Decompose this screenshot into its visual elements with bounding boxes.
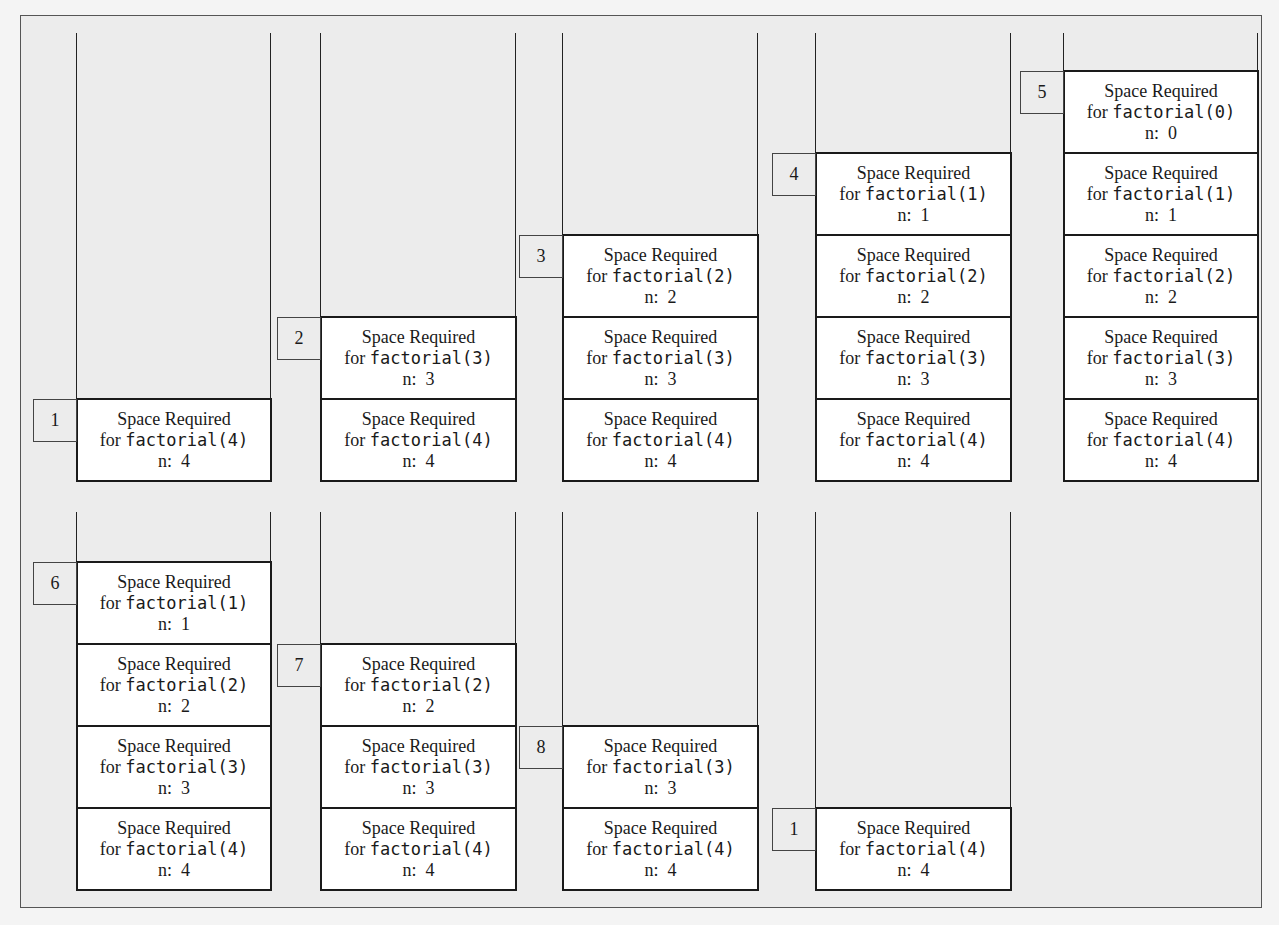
- frame-n-value: n: 3: [322, 778, 515, 799]
- frame-title: Space Required: [322, 818, 515, 839]
- step-number-label: 3: [519, 235, 563, 278]
- frame-n-value: n: 2: [564, 287, 757, 308]
- frame-n-value: n: 3: [817, 369, 1010, 390]
- method-call: factorial(2): [1112, 266, 1235, 286]
- frame-title: Space Required: [322, 654, 515, 675]
- stack-frame: Space Requiredfor factorial(2)n: 2: [76, 643, 272, 727]
- frame-call: for factorial(2): [1065, 266, 1257, 287]
- step-number-label: 5: [1020, 71, 1064, 114]
- stack-frame: Space Requiredfor factorial(4)n: 4: [76, 398, 272, 482]
- frame-call: for factorial(4): [322, 839, 515, 860]
- method-call: factorial(3): [1112, 348, 1235, 368]
- frame-call: for factorial(2): [564, 266, 757, 287]
- frame-title: Space Required: [78, 654, 270, 675]
- frame-title: Space Required: [1065, 81, 1257, 102]
- stack-frame: Space Requiredfor factorial(1)n: 1: [76, 561, 272, 645]
- frame-title: Space Required: [817, 409, 1010, 430]
- stack-frame: Space Requiredfor factorial(4)n: 4: [562, 807, 759, 891]
- frame-n-value: n: 1: [78, 614, 270, 635]
- frame-n-value: n: 1: [1065, 205, 1257, 226]
- frame-title: Space Required: [564, 736, 757, 757]
- stack-frame: Space Requiredfor factorial(2)n: 2: [1063, 234, 1259, 318]
- stack-frame: Space Requiredfor factorial(3)n: 3: [76, 725, 272, 809]
- frame-title: Space Required: [817, 327, 1010, 348]
- method-call: factorial(3): [612, 348, 735, 368]
- method-call: factorial(4): [612, 430, 735, 450]
- method-call: factorial(3): [370, 757, 493, 777]
- frame-n-value: n: 3: [78, 778, 270, 799]
- frame-n-value: n: 4: [817, 860, 1010, 881]
- method-call: factorial(1): [125, 593, 248, 613]
- frame-n-value: n: 4: [564, 451, 757, 472]
- frame-call: for factorial(2): [322, 675, 515, 696]
- step-number-label: 7: [277, 644, 321, 687]
- stack-frame: Space Requiredfor factorial(1)n: 1: [815, 152, 1012, 236]
- method-call: factorial(3): [865, 348, 988, 368]
- frame-call: for factorial(3): [322, 348, 515, 369]
- stack-frame: Space Requiredfor factorial(4)n: 4: [320, 807, 517, 891]
- frame-call: for factorial(3): [1065, 348, 1257, 369]
- method-call: factorial(3): [125, 757, 248, 777]
- method-call: factorial(1): [865, 184, 988, 204]
- frame-n-value: n: 3: [322, 369, 515, 390]
- frame-call: for factorial(4): [817, 430, 1010, 451]
- frame-n-value: n: 3: [1065, 369, 1257, 390]
- stack-frame: Space Requiredfor factorial(4)n: 4: [562, 398, 759, 482]
- stack-frame: Space Requiredfor factorial(4)n: 4: [1063, 398, 1259, 482]
- stack-frame: Space Requiredfor factorial(3)n: 3: [562, 316, 759, 400]
- frame-call: for factorial(2): [817, 266, 1010, 287]
- method-call: factorial(2): [865, 266, 988, 286]
- stack-frame: Space Requiredfor factorial(3)n: 3: [320, 316, 517, 400]
- frame-n-value: n: 2: [322, 696, 515, 717]
- frame-n-value: n: 3: [564, 778, 757, 799]
- stack-frame: Space Requiredfor factorial(4)n: 4: [76, 807, 272, 891]
- method-call: factorial(2): [612, 266, 735, 286]
- frame-n-value: n: 2: [1065, 287, 1257, 308]
- frame-title: Space Required: [564, 327, 757, 348]
- frame-call: for factorial(3): [564, 348, 757, 369]
- stack-frame: Space Requiredfor factorial(0)n: 0: [1063, 70, 1259, 154]
- frame-call: for factorial(1): [1065, 184, 1257, 205]
- frame-title: Space Required: [564, 409, 757, 430]
- frame-title: Space Required: [1065, 163, 1257, 184]
- frame-call: for factorial(3): [817, 348, 1010, 369]
- frame-call: for factorial(4): [564, 430, 757, 451]
- stack-frame: Space Requiredfor factorial(2)n: 2: [562, 234, 759, 318]
- frame-title: Space Required: [817, 163, 1010, 184]
- stack-frame: Space Requiredfor factorial(4)n: 4: [815, 398, 1012, 482]
- frame-n-value: n: 4: [322, 451, 515, 472]
- method-call: factorial(2): [125, 675, 248, 695]
- method-call: factorial(2): [370, 675, 493, 695]
- frame-n-value: n: 4: [817, 451, 1010, 472]
- frame-title: Space Required: [78, 818, 270, 839]
- method-call: factorial(1): [1112, 184, 1235, 204]
- frame-title: Space Required: [564, 818, 757, 839]
- method-call: factorial(4): [125, 430, 248, 450]
- step-number-label: 4: [772, 153, 816, 196]
- stack-frame: Space Requiredfor factorial(4)n: 4: [320, 398, 517, 482]
- frame-call: for factorial(4): [564, 839, 757, 860]
- frame-title: Space Required: [1065, 245, 1257, 266]
- stack-frame: Space Requiredfor factorial(3)n: 3: [320, 725, 517, 809]
- frame-call: for factorial(3): [322, 757, 515, 778]
- frame-call: for factorial(1): [78, 593, 270, 614]
- stack-frame: Space Requiredfor factorial(2)n: 2: [320, 643, 517, 727]
- frame-n-value: n: 4: [322, 860, 515, 881]
- method-call: factorial(4): [1112, 430, 1235, 450]
- frame-n-value: n: 4: [78, 860, 270, 881]
- step-number-label: 1: [33, 399, 77, 442]
- frame-call: for factorial(4): [78, 839, 270, 860]
- frame-title: Space Required: [322, 409, 515, 430]
- method-call: factorial(3): [612, 757, 735, 777]
- stack-frame: Space Requiredfor factorial(2)n: 2: [815, 234, 1012, 318]
- stack-frame: Space Requiredfor factorial(3)n: 3: [815, 316, 1012, 400]
- step-number-label: 1: [772, 808, 816, 851]
- frame-n-value: n: 2: [817, 287, 1010, 308]
- method-call: factorial(4): [370, 430, 493, 450]
- step-number-label: 2: [277, 317, 321, 360]
- frame-n-value: n: 1: [817, 205, 1010, 226]
- frame-title: Space Required: [817, 818, 1010, 839]
- frame-n-value: n: 2: [78, 696, 270, 717]
- frame-call: for factorial(4): [817, 839, 1010, 860]
- frame-n-value: n: 0: [1065, 123, 1257, 144]
